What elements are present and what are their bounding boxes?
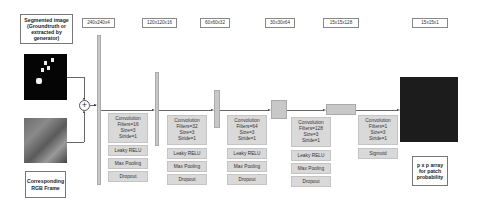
activation-block-2: Leaky RELU — [167, 148, 207, 159]
flow-line-4 — [287, 110, 323, 111]
activation-block-3: Leaky RELU — [227, 148, 267, 159]
dims-stage-2: 60x60x32 — [200, 18, 230, 28]
conv-block-5: Convolution Filters=1 Size=3 Stride=1 — [358, 115, 398, 145]
conv-stride: Stride=1 — [238, 136, 256, 142]
feature-map-15 — [326, 104, 356, 115]
conv-stride: Stride=1 — [369, 136, 387, 142]
concat-sum-icon: + — [79, 100, 90, 111]
dropout-block-1: Dropout — [108, 171, 148, 182]
rgb-frame-image — [24, 118, 67, 163]
rgb-frame-label: Corresponding RGB Frame — [25, 171, 66, 198]
dims-stage-4: 15x15x128 — [323, 18, 359, 28]
dims-stage-3: 30x30x64 — [265, 18, 295, 28]
pool-block-4: Max Pooling — [291, 163, 331, 174]
output-label: p x p array for patch probability — [412, 156, 448, 186]
connector-seg — [67, 77, 84, 78]
dims-stage-5: 15x15x1 — [412, 18, 448, 28]
feature-map-30 — [271, 100, 287, 119]
activation-block-1: Leaky RELU — [108, 145, 148, 156]
arrow-right-icon — [323, 109, 326, 111]
flow-line-3 — [220, 110, 268, 111]
dropout-block-4: Dropout — [291, 176, 331, 187]
activation-block-4: Leaky RELU — [291, 150, 331, 161]
flow-line-2 — [159, 110, 211, 111]
output-probability-map — [400, 77, 458, 142]
conv-block-1: Convolution Filters=16 Size=3 Stride=1 — [108, 113, 148, 143]
arrow-right-icon — [211, 109, 214, 111]
dropout-block-3: Dropout — [227, 174, 267, 185]
segmented-image — [24, 54, 67, 100]
conv-stride: Stride=1 — [178, 136, 196, 142]
flow-line-1 — [101, 110, 152, 111]
conv-stride: Stride=1 — [119, 134, 137, 140]
flow-line-5 — [356, 110, 397, 111]
conv-block-4: Convolution Filters=128 Size=3 Stride=1 — [291, 117, 331, 147]
connector-seg-down — [84, 77, 85, 99]
feature-map-60 — [214, 90, 220, 128]
conv-stride: Stride=1 — [302, 138, 320, 144]
connector-rgb — [67, 142, 84, 143]
pool-block-3: Max Pooling — [227, 161, 267, 172]
conv-block-2: Convolution Filters=32 Size=3 Stride=1 — [167, 115, 207, 145]
connector-rgb-up — [84, 113, 85, 142]
dims-stage-0: 240x240x4 — [82, 18, 115, 28]
pool-block-2: Max Pooling — [167, 161, 207, 172]
activation-block-5: Sigmoid — [358, 148, 398, 159]
arrow-right-icon — [152, 109, 155, 111]
arrow-right-icon — [268, 109, 271, 111]
feature-map-120 — [155, 72, 159, 146]
dims-stage-1: 120x120x16 — [142, 18, 177, 28]
conv-block-3: Convolution Filters=64 Size=3 Stride=1 — [227, 115, 267, 145]
arrow-right-icon — [397, 109, 400, 111]
pool-block-1: Max Pooling — [108, 158, 148, 169]
dropout-block-2: Dropout — [167, 174, 207, 185]
segmented-image-label: Segmented image (Groundtruth or extracte… — [20, 14, 73, 44]
